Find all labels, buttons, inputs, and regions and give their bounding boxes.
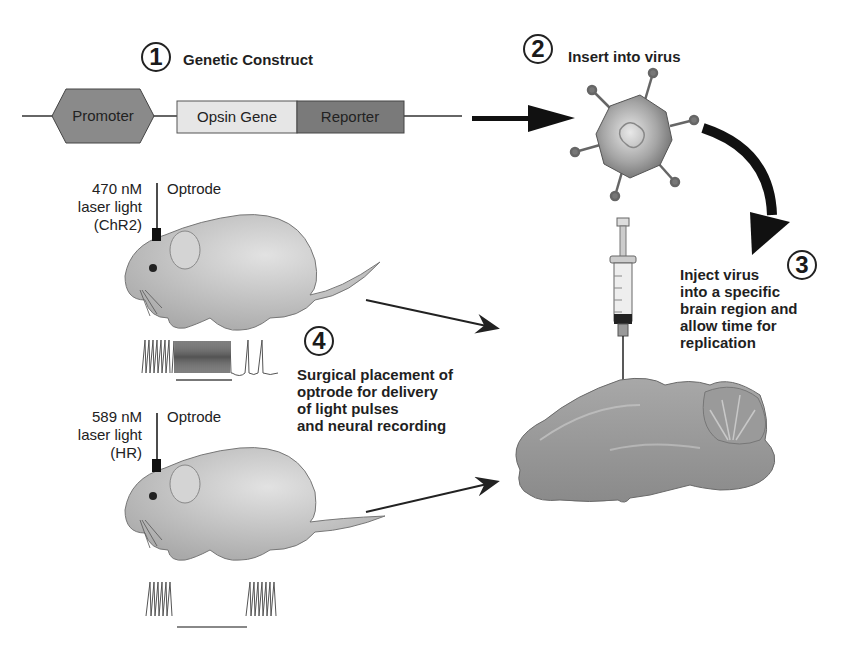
step-4-line: and neural recording [297, 417, 453, 434]
step-4-line: of light pulses [297, 400, 453, 417]
mouse-1-optrode-label: Optrode [167, 180, 221, 197]
light-type: laser light [78, 198, 142, 216]
step-3-text: Inject virus into a specific brain regio… [680, 266, 798, 351]
opsin-gene-label: Opsin Gene [197, 108, 277, 125]
step-1-badge: 1 [141, 42, 171, 72]
spike-train-excitation [142, 340, 278, 380]
brain-icon [516, 378, 775, 502]
mouse-icon [125, 413, 385, 560]
mouse-2-light-label: 589 nM laser light (HR) [78, 408, 142, 462]
step-4-line: Surgical placement of [297, 366, 453, 383]
step-2-badge: 2 [523, 34, 553, 64]
opsin-type: (ChR2) [78, 216, 142, 234]
mouse-1-light-label: 470 nM laser light (ChR2) [78, 180, 142, 234]
step-4-badge: 4 [304, 326, 334, 356]
step-3-line: into a specific [680, 283, 798, 300]
arrow-to-mouse-2 [366, 482, 496, 512]
spike-train-inhibition [146, 582, 276, 627]
wavelength: 470 nM [78, 180, 142, 198]
arrow-to-mouse-1 [366, 300, 496, 328]
light-type: laser light [78, 426, 142, 444]
step-4-text: Surgical placement of optrode for delive… [297, 366, 453, 434]
virus-icon [571, 69, 698, 200]
reporter-label: Reporter [321, 108, 379, 125]
step-3-line: replication [680, 334, 798, 351]
promoter-label: Promoter [72, 107, 134, 124]
mouse-icon [125, 183, 380, 330]
opsin-type: (HR) [78, 444, 142, 462]
mouse-2-optrode-label: Optrode [167, 408, 221, 425]
step-3-line: brain region and [680, 300, 798, 317]
step-3-line: Inject virus [680, 266, 798, 283]
curved-arrow-icon [703, 128, 790, 255]
wavelength: 589 nM [78, 408, 142, 426]
step-2-title: Insert into virus [568, 48, 681, 65]
step-3-line: allow time for [680, 317, 798, 334]
step-4-line: optrode for delivery [297, 383, 453, 400]
step-1-title: Genetic Construct [183, 51, 313, 68]
arrow-icon [472, 105, 575, 132]
